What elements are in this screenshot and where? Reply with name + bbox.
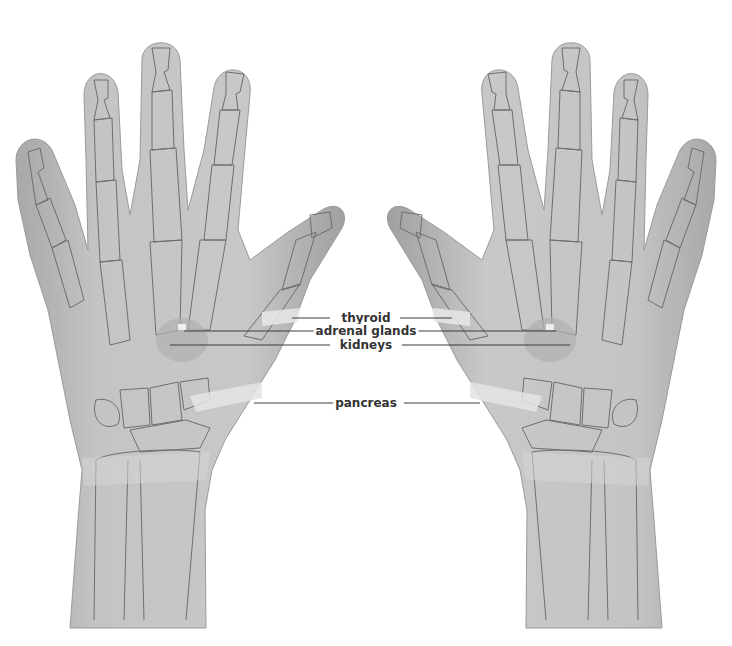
right-hand [387,43,716,628]
label-pancreas: pancreas [333,396,399,410]
left-hand [16,43,345,628]
label-adrenal-glands: adrenal glands [314,324,419,338]
label-kidneys: kidneys [338,338,394,352]
label-thyroid: thyroid [340,311,393,325]
reflexology-diagram: thyroid adrenal glands kidneys pancreas [0,0,732,646]
